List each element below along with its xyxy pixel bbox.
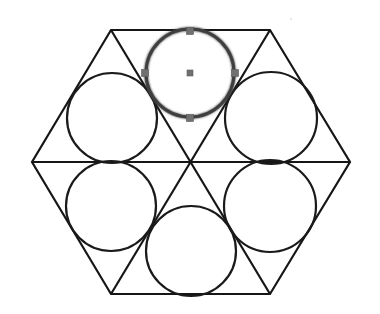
- resize-handle-right[interactable]: [232, 70, 239, 77]
- resize-handle-left[interactable]: [142, 70, 149, 77]
- circle-upper-left[interactable]: [67, 73, 157, 163]
- resize-handle-center[interactable]: [187, 70, 193, 76]
- canvas-speck: [290, 18, 292, 20]
- circle-upper-right[interactable]: [225, 72, 317, 164]
- resize-handle-bottom[interactable]: [187, 115, 194, 122]
- circle-lower-left[interactable]: [66, 161, 156, 251]
- diagram-canvas: [0, 0, 380, 314]
- resize-handle-top[interactable]: [187, 28, 194, 35]
- circle-bottom[interactable]: [146, 206, 236, 296]
- circle-lower-right[interactable]: [224, 160, 316, 252]
